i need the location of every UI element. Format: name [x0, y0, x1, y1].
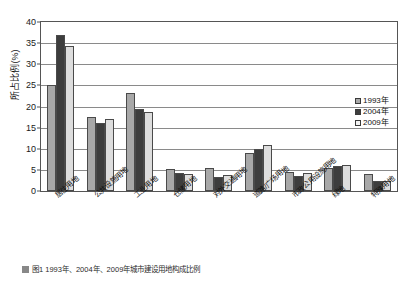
- y-axis-tick-label: 40: [26, 18, 36, 27]
- legend-item-label: 2009年: [363, 119, 389, 127]
- legend-swatch-icon: [355, 120, 361, 126]
- y-axis-tick-label: 25: [26, 81, 36, 90]
- legend-item[interactable]: 1993年: [355, 96, 411, 106]
- figure-container: 所占比例(%) 0510152025303540 居住用地公共设施用地工业用地仓…: [0, 0, 414, 282]
- bar-group: [120, 22, 160, 191]
- y-axis: 0510152025303540: [0, 21, 40, 192]
- y-axis-tick-label: 15: [26, 123, 36, 132]
- legend-item[interactable]: 2004年: [355, 107, 411, 117]
- y-axis-tick-label: 5: [31, 165, 36, 174]
- caption-text: 图1 1993年、2004年、2009年城市建设用地构成比例: [32, 265, 200, 274]
- bar[interactable]: [126, 93, 135, 191]
- bar[interactable]: [364, 174, 373, 191]
- y-axis-tick-label: 20: [26, 102, 36, 111]
- bar[interactable]: [65, 46, 74, 191]
- legend-item-label: 1993年: [363, 97, 389, 105]
- bar-group: [41, 22, 81, 191]
- x-axis-labels: 居住用地公共设施用地工业用地仓储用地对外交通用地道路/广场用地市政公用设施用地绿…: [40, 194, 398, 254]
- legend-item-label: 2004年: [363, 108, 389, 116]
- plot-area: [40, 21, 398, 192]
- bar[interactable]: [87, 117, 96, 191]
- legend-swatch-icon: [355, 109, 361, 115]
- bar[interactable]: [96, 123, 105, 191]
- bar[interactable]: [56, 35, 65, 191]
- bars-layer: [41, 22, 397, 191]
- bar[interactable]: [166, 169, 175, 191]
- legend: 1993年2004年2009年: [355, 96, 411, 129]
- y-axis-tick-label: 0: [31, 187, 36, 196]
- bar[interactable]: [205, 168, 214, 191]
- bar[interactable]: [47, 85, 56, 191]
- bar-group: [81, 22, 121, 191]
- legend-swatch-icon: [355, 98, 361, 104]
- bar[interactable]: [285, 172, 294, 191]
- bar-group: [160, 22, 200, 191]
- y-axis-tick-label: 10: [26, 144, 36, 153]
- bar-group: [239, 22, 279, 191]
- y-axis-tick-label: 30: [26, 60, 36, 69]
- bar[interactable]: [135, 109, 144, 191]
- caption-marker-icon: [22, 266, 29, 273]
- figure-caption: 图1 1993年、2004年、2009年城市建设用地构成比例: [22, 266, 392, 274]
- legend-item[interactable]: 2009年: [355, 118, 411, 128]
- bar-group: [199, 22, 239, 191]
- y-axis-tick-label: 35: [26, 39, 36, 48]
